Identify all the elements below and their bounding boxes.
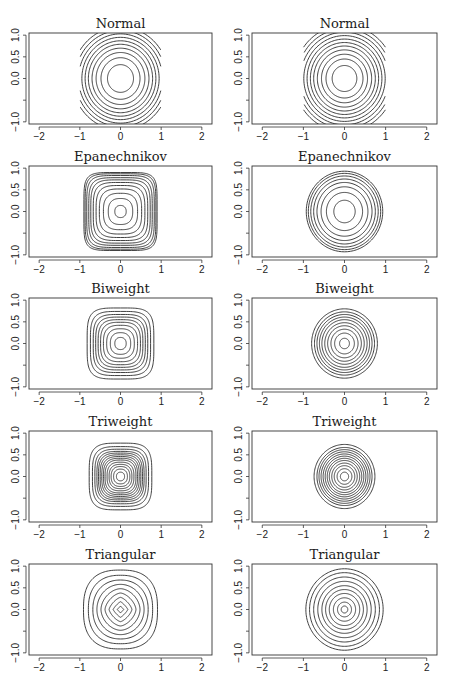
x-tick-label: −1 [298,131,310,142]
contour-line [321,54,367,103]
kernel-contour-figure: Normal−2−1012−1.00.00.51.0Normal−2−1012−… [0,0,454,681]
contour-lines [304,25,386,132]
contour-line [317,314,372,372]
panel-title: Biweight [315,281,374,296]
contour-line [115,205,126,217]
contour-line [326,590,364,630]
y-tick-label: −1.0 [233,643,244,663]
contour-lines [84,173,157,251]
contour-line [332,463,357,490]
y-tick-label: 0.5 [233,580,244,594]
x-axis: −2−1012 [33,392,205,407]
x-tick-label: 2 [199,529,205,540]
contour-line [87,308,154,379]
contour-line [314,312,374,375]
contour-lines [87,308,154,379]
y-tick-label: 0.5 [10,580,21,594]
contour-line [105,593,136,626]
panel-normal-right: Normal−2−1012−1.00.00.51.0 [233,16,437,142]
x-tick-label: −2 [257,264,269,275]
panel-title: Normal [320,16,370,31]
y-tick-label: −1.0 [10,643,21,663]
y-tick-label: 1.0 [10,293,21,307]
contour-line [308,173,380,249]
x-tick-label: 1 [158,662,164,673]
panel-triweight-left: Triweight−2−1012−1.00.00.51.0 [10,414,212,540]
x-axis: −2−1012 [257,658,430,673]
contour-line [109,597,132,621]
x-tick-label: −1 [298,396,310,407]
contour-line [99,189,141,234]
y-tick-label: 0.0 [233,602,244,616]
panel-epanechnikov-right: Epanechnikov−2−1012−1.00.00.51.0 [233,149,437,275]
panel-biweight-right: Biweight−2−1012−1.00.00.51.0 [233,281,437,407]
x-tick-label: 1 [383,396,389,407]
contour-line [326,192,362,230]
contour-line [322,320,367,368]
y-tick-label: 1.0 [10,559,21,573]
x-tick-label: 2 [199,662,205,673]
contour-line [321,187,368,236]
panel-triangular-left: Triangular−2−1012−1.00.00.51.0 [10,547,212,673]
x-tick-label: −2 [33,131,45,142]
x-tick-label: 2 [199,264,205,275]
y-tick-label: −1.0 [233,112,244,132]
y-axis: −1.00.00.51.0 [233,293,249,397]
contour-lines [314,444,375,508]
x-tick-label: 1 [158,264,164,275]
contour-line [341,606,348,613]
contour-line [314,179,376,244]
y-axis: −1.00.00.51.0 [10,293,26,397]
plot-frame [29,431,212,522]
y-tick-label: 0.0 [233,469,244,483]
y-tick-label: 0.5 [10,314,21,328]
contour-line [319,450,370,504]
x-tick-label: −2 [33,529,45,540]
contour-line [310,573,380,647]
y-tick-label: 0.5 [233,49,244,63]
x-tick-label: 1 [383,662,389,673]
y-tick-label: 1.0 [10,28,21,42]
y-axis: −1.00.00.51.0 [10,559,26,663]
contour-line [338,602,352,617]
contour-line [306,171,382,252]
x-tick-label: 0 [342,131,348,142]
contour-line [340,472,348,481]
panel-title: Triweight [313,414,378,429]
x-axis: −2−1012 [257,392,430,407]
contour-line [332,66,357,92]
plot-frame [252,166,437,257]
contour-lines [306,171,382,252]
y-tick-label: −1.0 [10,245,21,265]
x-tick-label: 0 [342,396,348,407]
y-tick-label: 0.5 [233,182,244,196]
contour-lines [80,27,161,130]
x-tick-label: 2 [424,264,430,275]
x-tick-label: −1 [74,264,86,275]
x-tick-label: −1 [298,264,310,275]
y-tick-label: 0.0 [233,71,244,85]
contour-line [334,200,355,223]
contour-line [116,472,124,481]
contour-line [88,44,152,112]
contour-line [307,39,382,118]
x-tick-label: −2 [33,396,45,407]
y-tick-label: 0.0 [10,71,21,85]
x-tick-label: −1 [74,662,86,673]
panel-title: Epanechnikov [298,149,392,164]
contour-line [340,338,350,348]
x-tick-label: −1 [298,662,310,673]
y-axis: −1.00.00.51.0 [10,28,26,132]
y-tick-label: 0.0 [10,204,21,218]
x-tick-label: −2 [33,662,45,673]
contour-line [110,333,130,355]
y-tick-label: −1.0 [10,377,21,397]
contour-line [97,584,144,634]
contour-line [304,29,385,129]
x-tick-label: 0 [118,264,124,275]
x-tick-label: 0 [118,662,124,673]
y-tick-label: 0.0 [233,336,244,350]
y-tick-label: 0.5 [10,447,21,461]
contour-line [90,311,150,375]
panel-title: Biweight [91,281,150,296]
